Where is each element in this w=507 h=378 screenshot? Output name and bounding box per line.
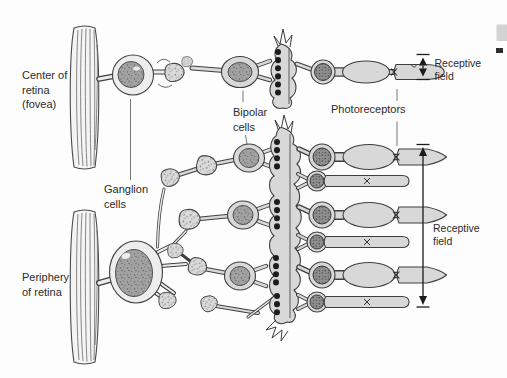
label-center-line2: retina (22, 84, 50, 96)
label-receptive-field-fovea: Receptive field (435, 57, 482, 82)
label-periphery-line1: Periphery (22, 271, 70, 283)
label-center-line1: Center of (22, 69, 68, 81)
label-periphery-line2: of retina (22, 286, 63, 298)
bipolar-cell-periphery-3 (225, 262, 267, 290)
bipolar-cell-fovea (222, 57, 271, 88)
edge-fragment-gray (497, 25, 507, 42)
label-bipolar-line1: Bipolar (233, 106, 268, 118)
edge-fragment-dark (496, 48, 503, 53)
photoreceptor-periphery-1 (299, 144, 447, 170)
label-ganglion-line1: Ganglion (104, 183, 148, 195)
label-photoreceptors: Photoreceptors (331, 103, 406, 115)
label-center-of-retina: Center of retina (fovea) (22, 69, 68, 110)
synaptic-terminals-fovea (157, 56, 224, 87)
horizontal-cell-layer-bottom (266, 115, 301, 341)
label-bipolar-line2: cells (233, 121, 256, 133)
retina-circuit-diagram: Center of retina (fovea) Periphery of re… (0, 0, 507, 378)
optic-nerve-fiber-bundle-bottom (70, 210, 99, 364)
photoreceptor-periphery-2 (298, 171, 409, 191)
optic-nerve-fiber-bundle-top (70, 26, 99, 169)
bipolar-cell-periphery-2 (228, 201, 270, 229)
label-rf-fovea-line1: Receptive (435, 57, 482, 69)
photoreceptor-periphery-4 (298, 232, 409, 252)
label-rf-periphery-line1: Receptive (433, 222, 480, 234)
label-center-line3: (fovea) (22, 98, 56, 110)
label-rf-fovea-line2: field (435, 70, 454, 82)
label-ganglion-line2: cells (104, 198, 127, 210)
photoreceptor-periphery-3 (299, 202, 447, 228)
photoreceptor-periphery-6 (298, 292, 409, 312)
label-ganglion-cells: Ganglion cells (104, 183, 148, 210)
label-rf-periphery-line2: field (433, 235, 452, 247)
bipolar-cell-periphery-1 (234, 144, 276, 172)
photoreceptor-periphery-5 (299, 262, 447, 288)
ganglion-cell-fovea (99, 55, 167, 95)
label-receptive-field-periphery: Receptive field (433, 222, 480, 247)
label-periphery-of-retina: Periphery of retina (22, 271, 70, 298)
horizontal-cell-layer-top (270, 29, 296, 108)
label-bipolar-cells: Bipolar cells (233, 106, 268, 133)
